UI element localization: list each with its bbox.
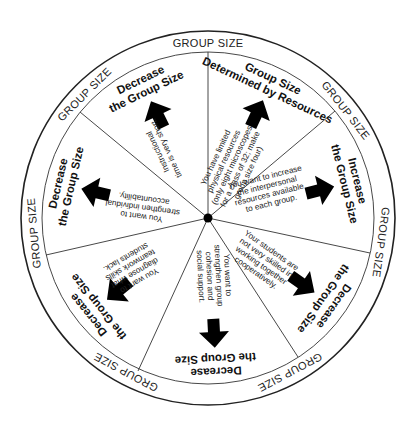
group-size-wheel: GROUP SIZE GROUP SIZE GROUP SIZE GROUP S… (0, 0, 413, 430)
spoke (208, 218, 370, 253)
center-hub (204, 214, 213, 223)
sector-cooperative-body: Your students are not very skilled in wo… (227, 229, 300, 295)
sector-body: social support. (195, 250, 207, 303)
sector-accountability-body: You want to strengthen individual accoun… (104, 189, 182, 226)
ring-label: GROUP SIZE (25, 198, 43, 269)
ring-label: GROUP SIZE (319, 79, 372, 142)
ring-label: GROUP SIZE (173, 37, 244, 49)
spoke (46, 218, 208, 255)
ring-label: GROUP SIZE (55, 65, 113, 123)
arrow-icon (302, 172, 337, 208)
arrow-icon (198, 318, 229, 349)
arrow-icon (237, 94, 276, 133)
sector-title: the Group Size (175, 351, 257, 367)
